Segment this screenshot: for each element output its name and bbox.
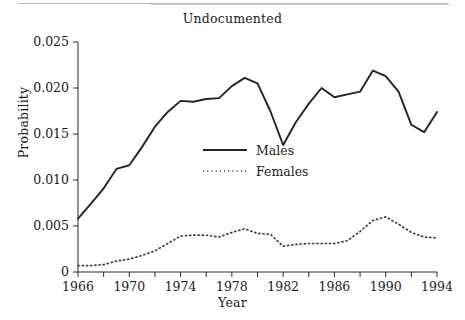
y-axis: 00.0050.0100.0150.0200.025 [33, 34, 78, 279]
x-axis-tick-label: 1974 [165, 279, 197, 294]
x-axis-tick-label: 1966 [62, 279, 94, 294]
chart-figure: Undocumented Probability Year 00.0050.01… [0, 0, 465, 320]
plot-area: 00.0050.0100.0150.0200.025 1966197019741… [0, 0, 465, 320]
y-axis-tick-label: 0.010 [33, 172, 69, 187]
x-axis-tick-label: 1994 [421, 279, 453, 294]
legend-label-males: Males [256, 143, 294, 158]
x-axis-tick-label: 1986 [319, 279, 351, 294]
y-axis-tick-label: 0.025 [33, 34, 69, 49]
chart-legend: MalesFemales [203, 143, 309, 179]
series-line-females [78, 217, 437, 266]
y-axis-tick-label: 0.020 [33, 80, 69, 95]
x-axis-tick-label: 1982 [267, 279, 299, 294]
legend-label-females: Females [256, 164, 309, 179]
x-axis-tick-label: 1990 [370, 279, 402, 294]
y-axis-tick-label: 0.005 [33, 218, 69, 233]
x-axis: 19661970197419781982198619901994 [62, 272, 453, 294]
y-axis-tick-label: 0.015 [33, 126, 69, 141]
x-axis-tick-label: 1970 [113, 279, 145, 294]
y-axis-tick-label: 0 [61, 264, 69, 279]
x-axis-tick-label: 1978 [216, 279, 248, 294]
